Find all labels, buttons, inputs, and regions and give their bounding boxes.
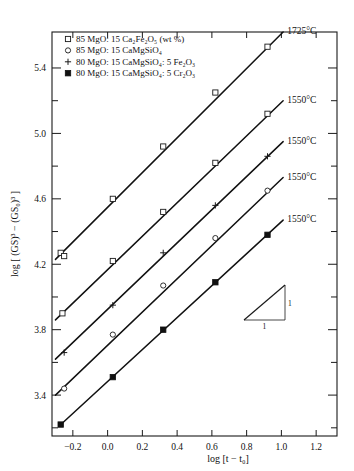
x-axis-title: log [t − t₀] bbox=[207, 453, 249, 464]
marker-open-circle bbox=[62, 386, 67, 391]
marker-open-square bbox=[161, 144, 166, 149]
marker-plus bbox=[65, 59, 71, 65]
marker-open-square bbox=[213, 90, 218, 95]
x-tick-label: 0.0 bbox=[102, 442, 114, 452]
marker-open-square bbox=[60, 311, 65, 316]
temperature-label: 1725°C bbox=[287, 26, 316, 36]
x-axis-ticks bbox=[73, 32, 316, 436]
slope-run-label: 1 bbox=[263, 322, 267, 331]
x-tick-label: 0.4 bbox=[171, 442, 183, 452]
x-tick-label: 0.6 bbox=[206, 442, 218, 452]
x-tick-label: −0.2 bbox=[64, 442, 81, 452]
y-axis-tick-labels: 3.43.84.24.65.05.4 bbox=[34, 63, 46, 400]
x-tick-label: 1.0 bbox=[275, 442, 287, 452]
slope-rise-label: 1 bbox=[288, 299, 292, 308]
marker-open-circle bbox=[265, 188, 270, 193]
marker-open-circle bbox=[110, 332, 115, 337]
y-tick-label: 5.4 bbox=[34, 63, 46, 73]
marker-open-square bbox=[110, 196, 115, 201]
marker-open-square bbox=[62, 253, 67, 258]
y-tick-label: 4.6 bbox=[34, 194, 46, 204]
temperature-label: 1550°C bbox=[287, 136, 316, 146]
y-axis-ticks bbox=[52, 68, 337, 428]
data-series-markers bbox=[58, 44, 271, 427]
temperature-annotations: 1725°C1550°C1550°C1550°C1550°C bbox=[287, 26, 316, 224]
plot-frame bbox=[52, 32, 337, 436]
temperature-label: 1550°C bbox=[287, 172, 316, 182]
marker-open-circle bbox=[161, 283, 166, 288]
legend-item-label: 85 MgO: 15 Ca₂Fe₂O₅ (wt %) bbox=[76, 34, 184, 44]
marker-open-circle bbox=[65, 48, 70, 53]
marker-filled-square bbox=[161, 327, 166, 332]
series-line bbox=[55, 142, 283, 360]
marker-open-square bbox=[265, 111, 270, 116]
y-tick-label: 3.4 bbox=[34, 391, 46, 401]
marker-open-square bbox=[213, 160, 218, 165]
marker-filled-square bbox=[65, 71, 70, 76]
x-tick-label: 0.2 bbox=[136, 442, 148, 452]
legend: 85 MgO: 15 Ca₂Fe₂O₅ (wt %)85 MgO: 15 CaM… bbox=[65, 34, 195, 78]
temperature-label: 1550°C bbox=[287, 214, 316, 224]
x-tick-label: 1.2 bbox=[310, 442, 322, 452]
x-tick-label: 0.8 bbox=[241, 442, 253, 452]
marker-open-square bbox=[65, 36, 70, 41]
slope-triangle-annotation: 11 bbox=[244, 285, 292, 331]
marker-filled-square bbox=[110, 374, 115, 379]
marker-open-circle bbox=[213, 235, 218, 240]
data-series-lines bbox=[55, 32, 283, 426]
x-axis-tick-labels: −0.20.00.20.40.60.81.01.2 bbox=[64, 442, 322, 452]
legend-item-label: 80 MgO: 15 CaMgSiO₄: 5 Cr₂O₃ bbox=[76, 68, 195, 78]
y-tick-label: 5.0 bbox=[34, 129, 46, 139]
y-tick-label: 4.2 bbox=[34, 260, 46, 270]
figure-container: −0.20.00.20.40.60.81.01.2 3.43.84.24.65.… bbox=[0, 0, 354, 471]
y-axis-title: log [ (GS)³ − (GS₀)³ ] bbox=[9, 191, 21, 277]
y-tick-label: 3.8 bbox=[34, 325, 46, 335]
slope-hypotenuse bbox=[244, 285, 285, 320]
marker-filled-square bbox=[265, 232, 270, 237]
chart-svg: −0.20.00.20.40.60.81.01.2 3.43.84.24.65.… bbox=[0, 0, 354, 471]
marker-filled-square bbox=[58, 422, 63, 427]
marker-plus bbox=[61, 349, 67, 355]
marker-open-square bbox=[110, 258, 115, 263]
marker-open-square bbox=[161, 209, 166, 214]
marker-filled-square bbox=[213, 280, 218, 285]
legend-item-label: 80 MgO: 15 CaMgSiO₄: 5 Fe₂O₃ bbox=[76, 57, 195, 67]
legend-item-label: 85 MgO: 15 CaMgSiO₄ bbox=[76, 45, 162, 55]
temperature-label: 1550°C bbox=[287, 95, 316, 105]
marker-open-square bbox=[265, 44, 270, 49]
